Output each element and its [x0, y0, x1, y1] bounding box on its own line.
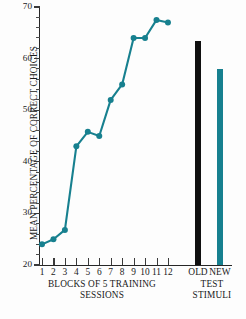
y-tick-minor — [36, 37, 40, 38]
y-tick-label: 40 — [2, 157, 32, 166]
data-point-block-2 — [50, 236, 56, 242]
x-tick — [76, 258, 77, 265]
bar-new — [217, 69, 223, 265]
x-tick — [157, 258, 158, 265]
y-tick-minor — [36, 89, 40, 90]
y-tick-minor — [36, 120, 40, 121]
data-point-block-3 — [62, 227, 68, 233]
data-point-block-5 — [85, 129, 91, 135]
y-tick-minor — [36, 151, 40, 152]
y-tick-minor — [36, 141, 40, 142]
x-axis-caption-training: BLOCKS OF 5 TRAINING SESSIONS — [26, 279, 178, 302]
y-tick-major — [34, 58, 40, 59]
y-tick-label: 30 — [2, 208, 32, 217]
y-tick-minor — [36, 27, 40, 28]
data-point-block-11 — [154, 17, 160, 23]
y-tick-minor — [36, 254, 40, 255]
y-tick-minor — [36, 17, 40, 18]
data-point-block-4 — [73, 143, 79, 149]
bar-old — [195, 41, 201, 265]
x-tick — [88, 258, 89, 265]
y-tick-label: 50 — [2, 105, 32, 114]
y-tick-major — [34, 213, 40, 214]
y-tick-major — [34, 264, 40, 265]
y-tick-minor — [36, 99, 40, 100]
x-tick — [99, 258, 100, 265]
y-axis-line — [39, 7, 40, 266]
y-tick-label: 60 — [2, 54, 32, 63]
x-tick — [168, 258, 169, 265]
x-tick-label-block-12: 12 — [159, 267, 177, 277]
y-tick-label: 70 — [2, 2, 32, 11]
data-point-block-12 — [165, 19, 171, 25]
data-point-block-6 — [96, 133, 102, 139]
caption-training-line2: SESSIONS — [26, 290, 178, 301]
caption-training-line1: BLOCKS OF 5 TRAINING — [26, 279, 178, 290]
y-tick-minor — [36, 130, 40, 131]
y-tick-minor — [36, 234, 40, 235]
series-line — [42, 20, 168, 244]
x-tick — [122, 258, 123, 265]
data-point-block-8 — [119, 81, 125, 87]
x-tick — [65, 258, 66, 265]
y-tick-minor — [36, 192, 40, 193]
x-tick — [145, 258, 146, 265]
x-tick — [134, 258, 135, 265]
x-tick — [111, 258, 112, 265]
y-tick-minor — [36, 172, 40, 173]
data-point-block-10 — [142, 35, 148, 41]
y-tick-minor — [36, 79, 40, 80]
y-tick-major — [34, 110, 40, 111]
caption-test-line1: TEST — [180, 279, 244, 290]
y-tick-minor — [36, 203, 40, 204]
x-tick-label-new: NEW — [207, 267, 233, 277]
data-point-block-7 — [108, 97, 114, 103]
y-tick-minor — [36, 244, 40, 245]
chart-figure: MEAN PERCENTAGE OF CORRECT CHOICES 20304… — [0, 0, 246, 319]
caption-test-line2: STIMULI — [180, 290, 244, 301]
y-tick-minor — [36, 48, 40, 49]
data-point-block-9 — [131, 35, 137, 41]
y-tick-minor — [36, 223, 40, 224]
y-tick-major — [34, 161, 40, 162]
y-tick-label: 20 — [2, 260, 32, 269]
x-tick — [53, 258, 54, 265]
x-axis-caption-test: TEST STIMULI — [180, 279, 244, 302]
x-tick — [42, 258, 43, 265]
y-tick-minor — [36, 182, 40, 183]
y-tick-minor — [36, 68, 40, 69]
y-tick-major — [34, 6, 40, 7]
